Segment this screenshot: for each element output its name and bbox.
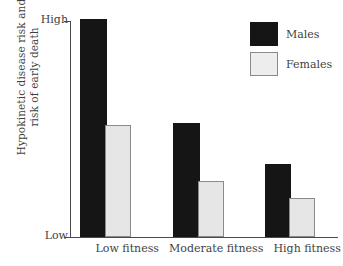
legend-item-females: Females xyxy=(250,52,332,76)
legend-swatch-males-icon xyxy=(250,22,278,46)
legend-label-females: Females xyxy=(286,58,332,71)
y-axis-title-line-2: risk of early death xyxy=(28,27,41,126)
legend-label-males: Males xyxy=(286,28,320,41)
y-tick-label-low: Low xyxy=(26,229,68,242)
bar-females-low xyxy=(105,125,131,237)
bar-males-low xyxy=(80,19,107,237)
bar-females-moderate xyxy=(198,181,224,237)
x-tick-label: High fitness xyxy=(274,242,341,255)
bar-group xyxy=(80,21,129,237)
y-axis-tick-high xyxy=(64,21,70,22)
legend-swatch-females-icon xyxy=(250,52,278,76)
bar-group xyxy=(173,21,222,237)
y-tick-label-high: High xyxy=(26,13,68,26)
x-axis-line xyxy=(70,237,338,238)
y-axis-tick-low xyxy=(64,237,70,238)
bar-chart: Hypokinetic disease risk and risk of ear… xyxy=(0,0,343,266)
bar-females-high xyxy=(289,198,315,237)
x-tick-label: Moderate fitness xyxy=(169,242,263,255)
bar-males-high xyxy=(265,164,291,237)
bar-males-moderate xyxy=(173,123,200,237)
x-tick-label: Low fitness xyxy=(96,242,159,255)
legend-item-males: Males xyxy=(250,22,320,46)
